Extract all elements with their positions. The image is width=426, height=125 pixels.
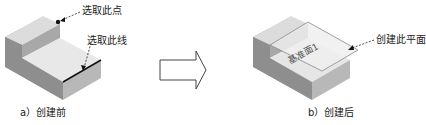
- annotation-line: 选取此线: [87, 35, 127, 47]
- caption-a: a）创建前: [20, 107, 66, 119]
- figure-a-block: [5, 12, 101, 100]
- caption-b: b）创建后: [308, 107, 354, 119]
- figure-b-block: [253, 16, 374, 100]
- annotation-plane: 创建此平面: [376, 34, 426, 46]
- transition-arrow-icon: [160, 51, 206, 89]
- annotation-point: 选取此点: [82, 5, 122, 17]
